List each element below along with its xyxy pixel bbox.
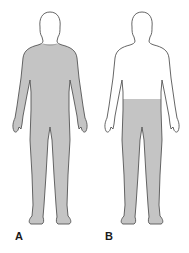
body-figure-b <box>92 0 189 230</box>
figure-label-b: B <box>105 230 113 242</box>
figure-label-a: A <box>15 230 23 242</box>
body-silhouette-a-icon <box>0 0 100 230</box>
body-figure-a <box>0 0 100 230</box>
body-silhouette-b-icon <box>92 0 189 230</box>
